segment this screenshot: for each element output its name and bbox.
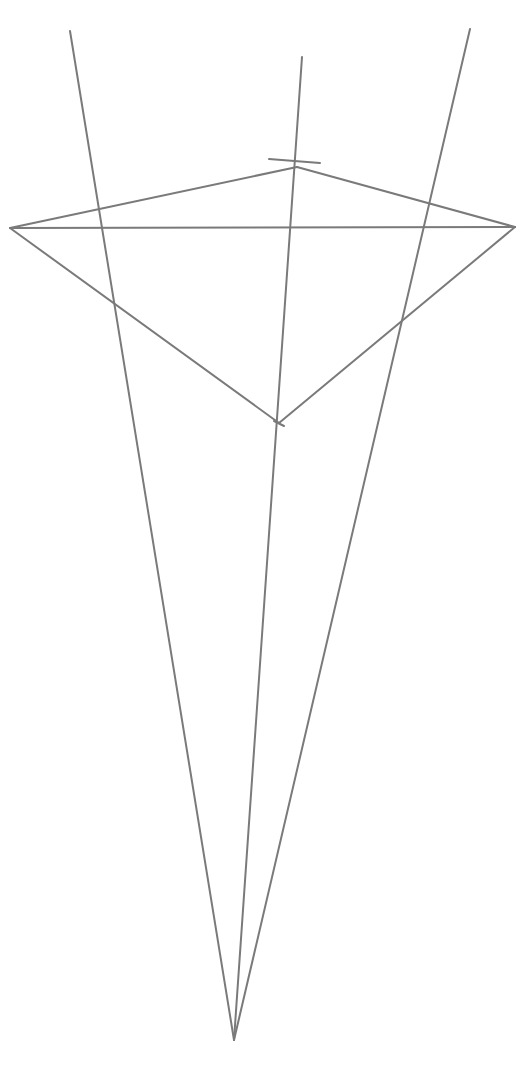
quad-edge-top-right xyxy=(297,167,515,227)
ray-left xyxy=(70,31,234,1040)
quad-edge-bottom-left xyxy=(10,228,279,423)
horizontal-line xyxy=(10,227,515,228)
quad-edge-right-bottom xyxy=(279,227,515,423)
quad-edge-left-top xyxy=(10,167,297,228)
construction-diagram xyxy=(0,0,527,1069)
